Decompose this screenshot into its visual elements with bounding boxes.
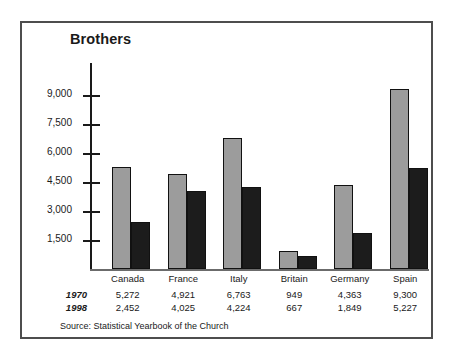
table-col-header-france: France [156, 272, 212, 288]
y-tick-9000: 9,000 [83, 95, 100, 97]
table-cell-britain-1998: 667 [267, 301, 323, 315]
bar-group-france [168, 63, 206, 269]
table-col-header-spain: Spain [378, 272, 434, 288]
bar-germany-1998 [353, 233, 372, 269]
table-cell-italy-1970: 6,763 [211, 288, 267, 302]
table-cell-france-1970: 4,921 [156, 288, 212, 302]
table-row-1970: 19705,2724,9216,7639494,3639,300 [24, 288, 433, 302]
table-cell-germany-1970: 4,363 [322, 288, 378, 302]
table-body: 19705,2724,9216,7639494,3639,30019982,45… [24, 288, 433, 315]
bar-italy-1970 [223, 138, 242, 269]
bar-italy-1998 [242, 187, 261, 269]
table-cell-france-1998: 4,025 [156, 301, 212, 315]
data-table: CanadaFranceItalyBritainGermanySpain 197… [24, 272, 433, 315]
table-cell-italy-1998: 4,224 [211, 301, 267, 315]
table-col-header-italy: Italy [211, 272, 267, 288]
chart-figure-frame: Brothers 1,5003,0004,5006,0007,5009,000 … [20, 21, 433, 339]
bar-spain-1970 [390, 89, 409, 269]
table-cell-spain-1970: 9,300 [378, 288, 434, 302]
y-tick-4500: 4,500 [83, 182, 100, 184]
bar-spain-1998 [409, 168, 428, 269]
bar-britain-1970 [279, 251, 298, 269]
table-col-header-germany: Germany [322, 272, 378, 288]
table-cell-germany-1998: 1,849 [322, 301, 378, 315]
y-tick-7500: 7,500 [83, 124, 100, 126]
bar-canada-1970 [112, 167, 131, 269]
bar-britain-1998 [298, 256, 317, 269]
table-cell-spain-1998: 5,227 [378, 301, 434, 315]
y-tick-label: 9,000 [47, 88, 72, 99]
value-table: CanadaFranceItalyBritainGermanySpain 197… [24, 272, 433, 315]
bar-group-britain [279, 63, 317, 269]
y-tick-6000: 6,000 [83, 153, 100, 155]
y-tick-label: 3,000 [47, 204, 72, 215]
y-tick-label: 6,000 [47, 146, 72, 157]
bar-france-1998 [187, 191, 206, 269]
table-row-1998: 19982,4524,0254,2246671,8495,227 [24, 301, 433, 315]
x-axis-line [90, 269, 429, 271]
table-row-label-1998: 1998 [24, 301, 100, 315]
table-col-header-britain: Britain [267, 272, 323, 288]
table-corner-cell [24, 272, 100, 288]
bar-france-1970 [168, 174, 187, 269]
plot-area: 1,5003,0004,5006,0007,5009,000 [90, 63, 430, 270]
bar-germany-1970 [334, 185, 353, 269]
table-cell-britain-1970: 949 [267, 288, 323, 302]
table-cell-canada-1998: 2,452 [100, 301, 156, 315]
table-header-row: CanadaFranceItalyBritainGermanySpain [24, 272, 433, 288]
chart-title: Brothers [70, 31, 131, 47]
bar-group-canada [112, 63, 150, 269]
bar-group-spain [390, 63, 428, 269]
table-row-label-1970: 1970 [24, 288, 100, 302]
table-cell-canada-1970: 5,272 [100, 288, 156, 302]
y-tick-3000: 3,000 [83, 211, 100, 213]
bar-group-italy [223, 63, 261, 269]
table-col-header-canada: Canada [100, 272, 156, 288]
bar-canada-1998 [131, 222, 150, 269]
y-tick-1500: 1,500 [83, 240, 100, 242]
bar-group-germany [334, 63, 372, 269]
y-tick-label: 7,500 [47, 117, 72, 128]
source-note: Source: Statistical Yearbook of the Chur… [60, 321, 229, 331]
y-tick-label: 4,500 [47, 175, 72, 186]
y-tick-label: 1,500 [47, 233, 72, 244]
